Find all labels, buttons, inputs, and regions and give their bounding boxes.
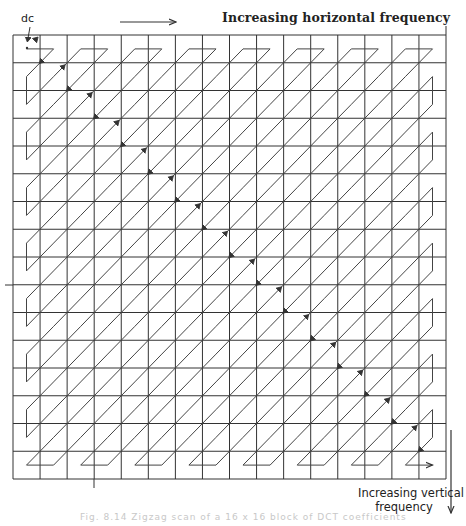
figure-caption: Fig. 8.14 Zigzag scan of a 16 x 16 block… (80, 512, 407, 522)
vertical-frequency-label: Increasing vertical frequency (358, 486, 450, 514)
dc-dot (26, 47, 28, 49)
horizontal-frequency-label: Increasing horizontal frequency (222, 10, 450, 25)
dc-pointer-arrow (28, 27, 31, 41)
dc-label: dc (21, 12, 34, 25)
vertical-frequency-label-line1: Increasing vertical (358, 486, 450, 500)
zigzag-diagram (0, 0, 466, 526)
up-right-arrowhead (33, 38, 37, 42)
